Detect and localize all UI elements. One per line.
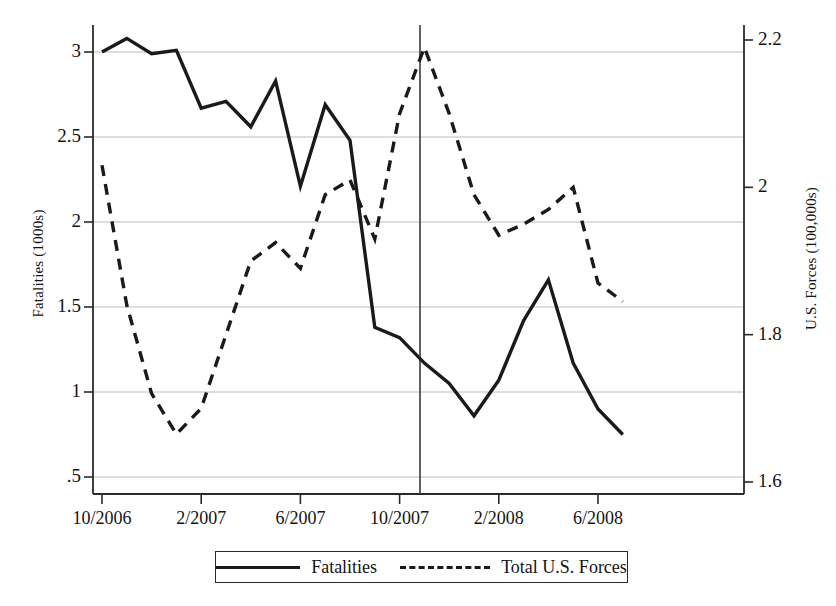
x-axis-tick-label: 10/2007 — [350, 508, 450, 529]
legend-row: Fatalities Total U.S. Forces — [216, 552, 627, 582]
y-axis-left-tick-label: 2 — [39, 210, 81, 232]
y-axis-left-tick-label: .5 — [39, 465, 81, 487]
y-axis-left-tick-label: 3 — [39, 40, 81, 62]
legend-label-fatalities: Fatalities — [311, 557, 377, 578]
y-axis-left-title: Fatalities (1000s) — [30, 164, 47, 364]
x-axis-tick-label: 6/2008 — [548, 508, 648, 529]
y-axis-right-tick-label: 2 — [758, 175, 810, 197]
y-axis-right-tick-label: 1.8 — [758, 323, 810, 345]
x-axis-tick-label: 2/2008 — [449, 508, 549, 529]
chart-figure: Fatalities (1000s) U.S. Forces (100,000s… — [0, 0, 836, 606]
y-axis-left-tick-label: 2.5 — [39, 125, 81, 147]
y-axis-left-tick-label: 1.5 — [39, 295, 81, 317]
axis-frame — [93, 25, 744, 494]
legend-label-total-us-forces: Total U.S. Forces — [501, 557, 627, 578]
legend-swatch-solid-icon — [216, 566, 300, 569]
x-axis-tick-label: 6/2007 — [250, 508, 350, 529]
chart-legend: Fatalities Total U.S. Forces — [215, 551, 628, 583]
y-axis-right-tick-label: 1.6 — [758, 470, 810, 492]
series-line-fatalities — [102, 38, 623, 434]
y-axis-right-tick-label: 2.2 — [758, 28, 810, 50]
x-axis-tick-label: 10/2006 — [52, 508, 152, 529]
gridlines — [93, 52, 744, 477]
y-axis-left-tick-label: 1 — [39, 380, 81, 402]
tick-marks — [84, 40, 753, 504]
legend-swatch-dashed-icon — [400, 566, 490, 569]
x-axis-tick-label: 2/2007 — [151, 508, 251, 529]
